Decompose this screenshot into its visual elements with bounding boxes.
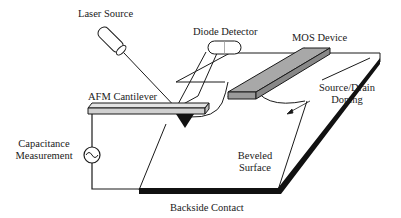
label-capacitance-measurement: Capacitance Measurement (10, 138, 78, 162)
label-capacitance-line1: Capacitance (10, 138, 78, 150)
label-beveled-line2: Surface (230, 162, 280, 174)
label-beveled-surface: Beveled Surface (230, 150, 280, 174)
afm-tip (176, 114, 194, 128)
label-diode-detector: Diode Detector (193, 26, 257, 38)
label-backside-contact: Backside Contact (170, 202, 244, 214)
label-beveled-line1: Beveled (230, 150, 280, 162)
label-source-drain-doping: Source/Drain Doping (312, 82, 382, 106)
diode-detector-icon (208, 41, 241, 54)
label-source-drain-line1: Source/Drain (312, 82, 382, 94)
laser-source-icon (96, 25, 128, 57)
label-laser-source: Laser Source (78, 8, 133, 20)
label-mos-device: MOS Device (292, 32, 347, 44)
afm-cantilever (88, 103, 209, 114)
label-afm-cantilever: AFM Cantilever (88, 91, 157, 103)
label-capacitance-line2: Measurement (10, 150, 78, 162)
label-source-drain-line2: Doping (312, 94, 382, 106)
ac-source-icon (84, 147, 100, 163)
